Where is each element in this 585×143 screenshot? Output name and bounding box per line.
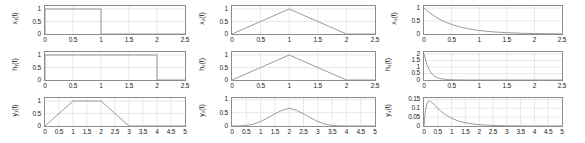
x-tick-label-x2-4: 2 [336,36,356,43]
grid-h2 [232,52,375,80]
x-tick-label-h3-2: 1 [469,82,489,89]
y-tick-label-h3-4: 2 [397,50,420,57]
plot-area-y3 [424,98,562,126]
y-tick-label-y2-1: 0.5 [205,109,228,116]
plot-area-y1 [45,98,185,126]
x-tick-label-h1-1: 0.5 [63,82,83,89]
y-tick-label-x3-1: 0.5 [397,17,420,24]
grid-y2 [232,98,375,126]
y-tick-label-h3-1: 0.5 [397,69,420,76]
y-tick-label-x2-2: 1 [205,5,228,12]
y-axis-label-h2: h₂(t) [198,48,205,82]
plot-box-x1 [44,5,186,35]
x-tick-label-h3-1: 0.5 [442,82,462,89]
grid-h3 [424,52,562,80]
x-tick-label-x2-3: 1.5 [308,36,328,43]
x-tick-label-h2-4: 2 [336,82,356,89]
x-tick-label-y1-10: 5 [175,128,195,135]
y-tick-label-h3-3: 1.5 [397,56,420,63]
x-tick-label-x2-0: 0 [222,36,242,43]
x-tick-label-x2-1: 0.5 [251,36,271,43]
x-tick-label-h1-2: 1 [91,82,111,89]
y-tick-label-h2-1: 0.5 [205,64,228,71]
x-tick-label-y2-10: 5 [365,128,385,135]
x-tick-label-h1-0: 0 [35,82,55,89]
plot-box-y3 [423,97,563,127]
y-axis-label-h1: h₁(t) [11,48,18,82]
x-tick-label-x3-3: 1.5 [497,36,517,43]
y-tick-label-y3-2: 0.1 [397,104,420,111]
y-tick-label-y3-1: 0.05 [397,113,420,120]
x-tick-label-h3-4: 2 [524,82,544,89]
x-tick-label-h1-3: 1.5 [119,82,139,89]
x-tick-label-h1-4: 2 [147,82,167,89]
grid-y1 [45,98,185,126]
plot-box-y2 [231,97,376,127]
x-tick-label-x1-3: 1.5 [119,36,139,43]
plot-area-h1 [45,52,185,80]
y-tick-label-y2-2: 1 [205,95,228,102]
plot-area-x3 [424,6,562,34]
y-tick-label-x3-2: 1 [397,4,420,11]
x-tick-label-h2-2: 1 [279,82,299,89]
y-axis-label-y1: y₁(t) [11,94,18,128]
y-tick-label-y1-1: 0.5 [18,110,41,117]
grid-h1 [45,52,185,80]
x-tick-label-h3-0: 0 [414,82,434,89]
x-tick-label-y3-10: 5 [552,128,572,135]
x-tick-label-h2-3: 1.5 [308,82,328,89]
x-tick-label-h2-1: 0.5 [251,82,271,89]
plot-area-h3 [424,52,562,80]
y-tick-label-y1-2: 1 [18,97,41,104]
plot-area-x1 [45,6,185,34]
plot-area-h2 [232,52,375,80]
y-axis-label-x1: x₁(t) [11,2,18,36]
x-tick-label-x3-5: 2.5 [552,36,572,43]
y-tick-label-x1-2: 1 [18,5,41,12]
y-axis-label-y3: y₃(t) [384,94,391,128]
y-axis-label-h3: h₃(t) [384,48,391,82]
plot-box-x2 [231,5,376,35]
plot-area-y2 [232,98,375,126]
x-tick-label-x1-5: 2.5 [175,36,195,43]
grid-x2 [232,6,375,34]
grid-x1 [45,6,185,34]
y-tick-label-h3-2: 1 [397,63,420,70]
x-tick-label-x3-2: 1 [469,36,489,43]
x-tick-label-x1-2: 1 [91,36,111,43]
grid-y3 [424,98,562,126]
x-tick-label-h1-5: 2.5 [175,82,195,89]
y-tick-label-h1-1: 0.5 [18,64,41,71]
y-tick-label-h2-2: 1 [205,51,228,58]
y-axis-label-x3: x₃(t) [390,2,397,36]
x-tick-label-x3-0: 0 [414,36,434,43]
y-axis-label-x2: x₂(t) [198,2,205,36]
x-tick-label-x3-1: 0.5 [442,36,462,43]
x-tick-label-h2-0: 0 [222,82,242,89]
x-tick-label-h3-5: 2.5 [552,82,572,89]
figure-canvas: 00.5100.511.522.5x₁(t)00.5100.511.522.5h… [0,0,585,143]
grid-x3 [424,6,562,34]
x-tick-label-x3-4: 2 [524,36,544,43]
plot-box-x3 [423,5,563,35]
y-tick-label-y3-3: 0.15 [397,95,420,102]
plot-box-y1 [44,97,186,127]
y-axis-label-y2: y₂(t) [198,94,205,128]
y-tick-label-h1-2: 1 [18,51,41,58]
x-tick-label-x2-5: 2.5 [365,36,385,43]
plot-box-h1 [44,51,186,81]
plot-box-h2 [231,51,376,81]
plot-box-h3 [423,51,563,81]
plot-area-x2 [232,6,375,34]
x-tick-label-x1-1: 0.5 [63,36,83,43]
x-tick-label-x1-4: 2 [147,36,167,43]
x-tick-label-x1-0: 0 [35,36,55,43]
y-tick-label-x2-1: 0.5 [205,18,228,25]
x-tick-label-h3-3: 1.5 [497,82,517,89]
y-tick-label-x1-1: 0.5 [18,18,41,25]
x-tick-label-h2-5: 2.5 [365,82,385,89]
x-tick-label-x2-2: 1 [279,36,299,43]
